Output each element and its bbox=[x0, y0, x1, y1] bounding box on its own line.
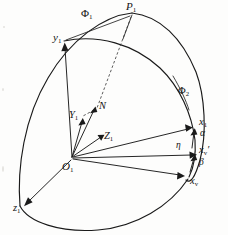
label-axis-xv: xv bbox=[190, 176, 198, 188]
arrowhead-alpha bbox=[190, 128, 197, 135]
vector-o1-to-y1 bbox=[65, 48, 72, 157]
scan-speck bbox=[3, 26, 5, 28]
vector-o1-to-x1 bbox=[73, 129, 188, 157]
label-axis-z1: z1 bbox=[13, 203, 20, 215]
outer-arc-bottom bbox=[20, 179, 188, 230]
dashed-line-p1-to-n bbox=[97, 17, 131, 108]
label-axis-Z1: Z1 bbox=[104, 131, 113, 143]
label-angle-beta: β bbox=[199, 158, 204, 168]
arrowhead-y1 bbox=[61, 43, 68, 52]
scan-speck bbox=[2, 88, 4, 91]
arrowhead-xv bbox=[177, 172, 185, 179]
arrowhead-Y1 bbox=[78, 118, 85, 126]
label-axis-xv-prime: xv′ bbox=[199, 145, 209, 157]
figure-root: Φ1 P1 y1 Y1 N Z1 O1 z1 Φ2 x1 α η xv′ β x… bbox=[0, 0, 228, 235]
arrowhead-x1 bbox=[185, 124, 193, 132]
label-point-p1: P1 bbox=[126, 1, 136, 14]
label-axis-x1: x1 bbox=[199, 117, 207, 129]
label-axis-y1: y1 bbox=[53, 32, 61, 45]
arrowhead-N bbox=[90, 107, 97, 114]
vector-o1-to-xv bbox=[73, 159, 180, 175]
chord-y1-p1 bbox=[66, 16, 130, 40]
label-angle-alpha: α bbox=[200, 129, 205, 139]
scan-speck bbox=[2, 166, 4, 172]
vector-o1-to-xv-prime bbox=[73, 155, 192, 158]
diagram-canvas bbox=[0, 0, 228, 235]
label-phi-2: Φ2 bbox=[178, 86, 189, 98]
label-angle-eta: η bbox=[176, 141, 181, 151]
label-point-n: N bbox=[99, 101, 106, 112]
label-phi-1: Φ1 bbox=[81, 8, 93, 21]
label-origin-o1: O1 bbox=[62, 161, 73, 174]
label-axis-Y1: Y1 bbox=[69, 110, 78, 122]
